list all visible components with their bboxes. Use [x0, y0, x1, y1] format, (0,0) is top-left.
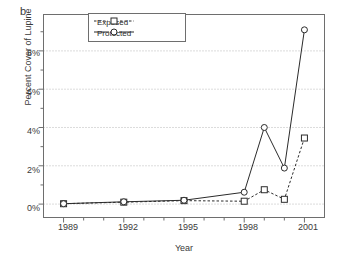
- data-point: [261, 187, 267, 193]
- chart-figure: b Percent Cover of Lupine Year 0% 2% 4% …: [0, 0, 343, 260]
- data-point: [241, 198, 247, 204]
- data-point: [121, 199, 127, 205]
- plot-frame: [44, 15, 325, 218]
- data-point: [281, 165, 287, 171]
- data-point: [261, 124, 267, 130]
- data-point: [61, 201, 67, 207]
- legend: Exposed Protected: [88, 13, 186, 42]
- legend-item-protected: Protected: [93, 27, 131, 39]
- data-point: [181, 197, 187, 203]
- series-line-protected: [64, 30, 305, 204]
- data-point: [241, 189, 247, 195]
- data-point: [301, 27, 307, 33]
- legend-glyph-protected: [93, 27, 135, 37]
- data-series-layer: [61, 27, 308, 207]
- data-point: [301, 135, 307, 141]
- gridlines: [44, 51, 325, 204]
- legend-glyph-exposed: [93, 16, 135, 26]
- data-point: [281, 196, 287, 202]
- series-line-exposed: [64, 138, 305, 204]
